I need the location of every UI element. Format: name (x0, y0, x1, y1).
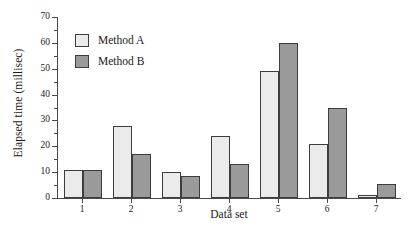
y-tick-label: 70 (41, 12, 51, 22)
y-tick-mark (52, 198, 57, 199)
y-tick-minor-mark (54, 82, 57, 83)
bar (211, 136, 230, 198)
bar (377, 184, 396, 198)
y-tick-label: 50 (41, 64, 51, 74)
bar (132, 154, 151, 198)
bar-chart: Elapsed time (millisec) 010203040506070 … (0, 0, 418, 244)
y-axis-title: Elapsed time (millisec) (6, 0, 30, 205)
legend-swatch-icon (75, 55, 89, 68)
y-tick-mark (52, 120, 57, 121)
y-tick-label: 20 (41, 142, 51, 152)
legend-item[interactable]: Method B (75, 51, 144, 72)
y-tick-mark (52, 146, 57, 147)
chart-legend: Method AMethod B (75, 30, 144, 72)
y-tick-label: 0 (45, 193, 50, 203)
y-tick-label: 10 (41, 167, 51, 177)
bar (64, 170, 83, 198)
bar (309, 144, 328, 198)
y-axis-title-text: Elapsed time (millisec) (12, 48, 24, 157)
y-tick-mark (52, 69, 57, 70)
y-tick-mark (52, 95, 57, 96)
x-tick-mark (82, 198, 83, 203)
bar (279, 43, 298, 198)
x-tick-mark (229, 198, 230, 203)
legend-label: Method A (98, 35, 144, 47)
x-tick-mark (327, 198, 328, 203)
bar (113, 126, 132, 198)
y-tick-mark (52, 17, 57, 18)
legend-item[interactable]: Method A (75, 30, 144, 51)
y-tick-mark (52, 172, 57, 173)
x-tick-mark (180, 198, 181, 203)
x-axis-title-text: Data set (210, 208, 247, 220)
bar (83, 170, 102, 198)
bar (260, 71, 279, 198)
bar (358, 195, 377, 198)
bar (181, 176, 200, 198)
legend-label: Method B (98, 56, 144, 68)
legend-swatch-icon (75, 34, 89, 47)
y-tick-minor-mark (54, 185, 57, 186)
y-tick-label: 60 (41, 38, 51, 48)
bar (162, 172, 181, 198)
y-tick-minor-mark (54, 159, 57, 160)
bar (230, 164, 249, 198)
y-tick-minor-mark (54, 56, 57, 57)
y-tick-minor-mark (54, 30, 57, 31)
y-tick-label: 40 (41, 90, 51, 100)
x-tick-mark (131, 198, 132, 203)
y-tick-minor-mark (54, 108, 57, 109)
x-tick-mark (376, 198, 377, 203)
y-tick-minor-mark (54, 133, 57, 134)
y-tick-label: 30 (41, 116, 51, 126)
x-tick-mark (278, 198, 279, 203)
bar (328, 108, 347, 199)
y-tick-mark (52, 43, 57, 44)
x-axis-title: Data set (57, 208, 401, 220)
